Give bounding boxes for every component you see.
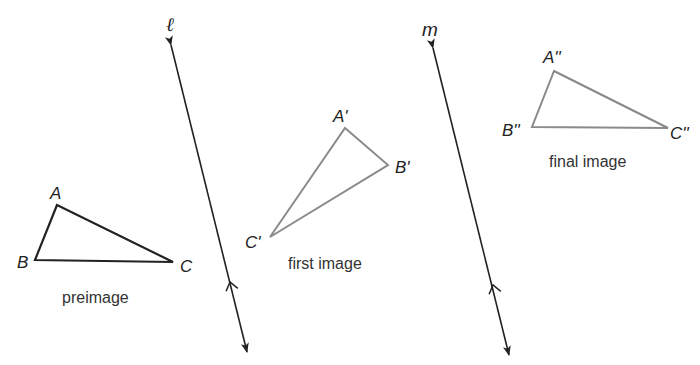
line-m-stroke bbox=[433, 48, 509, 355]
final-image-triangle: A'' B'' C'' final image bbox=[502, 48, 690, 170]
vertex-label-b-prime: B' bbox=[395, 158, 410, 177]
first-image-triangle: A' B' C' first image bbox=[245, 107, 410, 272]
vertex-label-a: A bbox=[49, 184, 61, 203]
vertex-label-c-prime: C' bbox=[245, 233, 261, 252]
line-l: ℓ bbox=[166, 13, 247, 352]
line-m: m bbox=[422, 19, 509, 355]
reflection-diagram: ℓ m A B C preimage A' B' C' first image … bbox=[0, 0, 700, 365]
vertex-label-c: C bbox=[180, 257, 193, 276]
vertex-label-c-double-prime: C'' bbox=[670, 124, 690, 143]
preimage-triangle: A B C preimage bbox=[17, 184, 193, 306]
preimage-triangle-shape bbox=[35, 205, 173, 262]
vertex-label-b-double-prime: B'' bbox=[502, 121, 521, 140]
first-image-caption: first image bbox=[288, 255, 362, 272]
vertex-label-a-prime: A' bbox=[332, 107, 348, 126]
vertex-label-a-double-prime: A'' bbox=[542, 48, 562, 67]
final-image-triangle-shape bbox=[532, 71, 668, 128]
first-image-triangle-shape bbox=[270, 128, 388, 237]
line-l-label: ℓ bbox=[166, 13, 174, 35]
line-m-label: m bbox=[422, 19, 438, 40]
preimage-caption: preimage bbox=[62, 289, 129, 306]
line-l-stroke bbox=[171, 45, 247, 352]
final-image-caption: final image bbox=[549, 153, 626, 170]
line-m-direction-chevron-icon bbox=[489, 285, 501, 294]
vertex-label-b: B bbox=[17, 253, 28, 272]
